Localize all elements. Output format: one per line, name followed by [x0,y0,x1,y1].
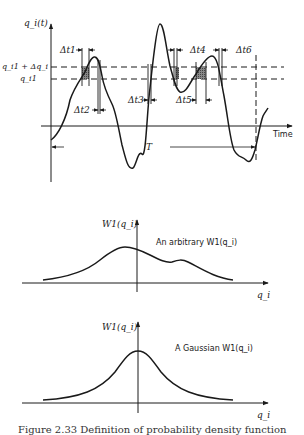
interval-label-6: Δt6 [236,45,252,55]
figure-caption: Figure 2.33 Definition of probability de… [18,424,287,435]
gaussian-density-panel [22,322,268,413]
upper-level-label: q_i1 + Δq_i [2,62,48,72]
gaussian-y-axis-label: W1(q_i) [102,322,137,332]
interval-label-3: Δt3 [128,95,144,105]
interval-label-2: Δt2 [74,105,90,115]
arbitrary-density-curve [43,247,233,280]
arbitrary-annotation: An arbitrary W1(q_i) [156,238,237,248]
arbitrary-density-panel [22,220,268,292]
period-label: T [146,142,152,152]
lower-level-label: q_i1 [20,74,37,84]
interval-label-1: Δt1 [60,45,76,55]
gaussian-annotation: A Gaussian W1(q_i) [175,344,253,354]
arbitrary-x-axis-label: q_i [257,290,270,300]
interval-label-5: Δt5 [176,95,192,105]
time-signal-panel [41,24,292,182]
interval-label-4: Δt4 [190,45,206,55]
hatch-4 [196,67,206,79]
gaussian-x-axis-label: q_i [257,410,270,420]
time-axis-label: Time [273,130,293,140]
signal-y-axis-label: q_i(t) [24,18,48,28]
arbitrary-y-axis-label: W1(q_i) [102,219,137,229]
